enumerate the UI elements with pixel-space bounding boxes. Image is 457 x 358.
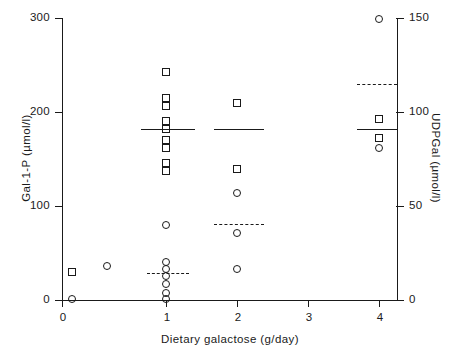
y-right-label-100: 100: [409, 105, 449, 117]
y-left-tick-200: [55, 112, 63, 113]
y-right-tick-100: [396, 112, 404, 113]
y-axis-right-line: [397, 18, 398, 301]
y-axis-title-right: UDPGal (µmol/l): [430, 88, 442, 228]
data-point-circle: [233, 189, 241, 197]
y-right-label-0: 0: [409, 293, 449, 305]
x-tick-3: [308, 300, 309, 307]
data-point-circle: [162, 295, 170, 303]
data-point-circle: [162, 272, 170, 280]
y-right-tick-50: [396, 206, 404, 207]
data-point-square: [375, 134, 383, 142]
data-point-square: [162, 136, 170, 144]
x-tick-2: [237, 300, 238, 307]
y-right-tick-150: [396, 18, 404, 19]
y-right-label-50: 50: [409, 199, 449, 211]
x-label-3: 3: [294, 311, 324, 323]
x-label-0: 0: [48, 311, 78, 323]
data-point-square: [233, 99, 241, 107]
data-point-square: [162, 117, 170, 125]
y-axis-title-left: Gal-1-P (µmol/l): [20, 88, 32, 228]
data-point-circle: [233, 229, 241, 237]
data-point-square: [233, 165, 241, 173]
y-left-tick-100: [55, 206, 63, 207]
data-point-square: [162, 159, 170, 167]
x-label-2: 2: [223, 311, 253, 323]
data-point-circle: [103, 262, 111, 270]
data-point-circle: [162, 280, 170, 288]
data-point-square: [162, 167, 170, 175]
y-right-label-150: 150: [409, 11, 449, 23]
data-point-square: [162, 125, 170, 133]
y-axis-left-line: [62, 18, 63, 301]
data-point-square: [162, 94, 170, 102]
data-point-circle: [162, 221, 170, 229]
median-line-gal1p-x2: [214, 129, 264, 130]
y-right-tick-0: [396, 300, 404, 301]
data-point-circle: [68, 295, 76, 303]
y-left-label-0: 0: [8, 293, 50, 305]
data-point-circle: [375, 15, 383, 23]
x-axis-title: Dietary galactose (g/day): [110, 333, 350, 345]
x-tick-4: [379, 300, 380, 307]
median-line-gal1p-x4: [357, 129, 397, 130]
x-label-1: 1: [152, 311, 182, 323]
x-label-4: 4: [365, 311, 395, 323]
data-point-square: [68, 268, 76, 276]
x-tick-0: [62, 300, 63, 307]
data-point-circle: [233, 265, 241, 273]
x-axis-line: [62, 300, 398, 301]
data-point-square: [162, 102, 170, 110]
median-line-udpgal-x2: [214, 224, 264, 225]
median-line-udpgal-x4: [357, 84, 397, 85]
data-point-square: [162, 144, 170, 152]
y-left-label-300: 300: [8, 11, 50, 23]
data-point-square: [162, 68, 170, 76]
y-left-tick-300: [55, 18, 63, 19]
chart-figure: 300 200 100 0 150 100 50 0 0 1 2 3 4 Die…: [0, 0, 457, 358]
data-point-circle: [375, 144, 383, 152]
data-point-square: [375, 115, 383, 123]
